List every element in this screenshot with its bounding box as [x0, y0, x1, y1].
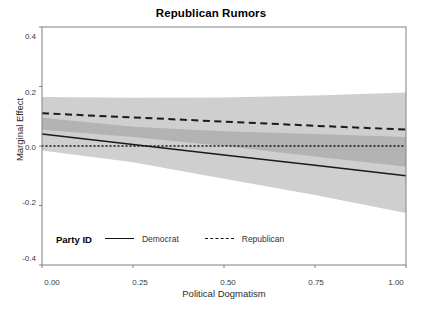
legend-line-sample-dashed — [205, 234, 234, 244]
confidence-bands — [42, 92, 406, 212]
legend-line-sample-solid — [105, 234, 134, 244]
legend-label-republican: Republican — [242, 234, 285, 244]
legend-title: Party ID — [56, 234, 92, 245]
legend-item-democrat[interactable]: Democrat — [105, 234, 179, 244]
legend-item-republican[interactable]: Republican — [205, 234, 285, 244]
plot-area — [0, 0, 422, 309]
chart-figure: Republican Rumors Marginal Effect Politi… — [0, 0, 422, 309]
legend: Party ID Democrat Republican — [56, 232, 310, 246]
legend-label-democrat: Democrat — [142, 234, 179, 244]
